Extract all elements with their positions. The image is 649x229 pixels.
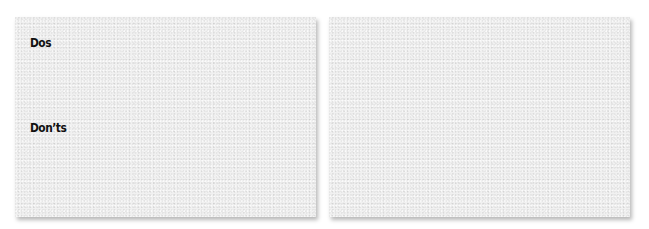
dos-donts-card: Dos Don’ts [15,17,316,217]
dos-heading: Dos [30,36,51,49]
blank-card [329,17,630,217]
donts-heading: Don’ts [30,121,66,134]
